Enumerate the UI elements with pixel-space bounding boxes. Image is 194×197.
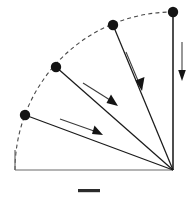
scale-bar <box>78 189 100 192</box>
arc-node-dot-3 <box>51 62 61 72</box>
descent-arrow-icon <box>178 42 186 81</box>
radius-line-4 <box>25 115 173 170</box>
arc-node-dot-2 <box>108 20 118 30</box>
quarter-circle-diagram <box>0 0 194 197</box>
arc-node-dot-4 <box>20 110 30 120</box>
sweep-arrow-2-icon <box>83 83 118 106</box>
dashed-arc-icon <box>15 12 173 170</box>
radius-line-3 <box>56 67 173 170</box>
sweep-arrow-1-icon <box>126 52 145 91</box>
radius-line-2 <box>113 25 173 170</box>
arc-node-dot-1 <box>168 7 178 17</box>
sweep-arrow-3-icon <box>60 119 103 135</box>
figure-root <box>0 0 194 197</box>
